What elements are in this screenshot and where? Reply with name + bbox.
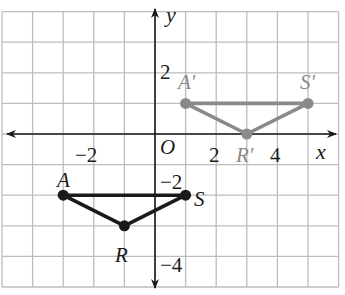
x-tick-neg2: −2 <box>75 145 97 166</box>
vertex-label-R-prime: R′ <box>236 145 253 166</box>
image-vertex-point <box>303 98 314 109</box>
y-axis-label: y <box>166 4 176 26</box>
image-vertex-point <box>241 129 252 140</box>
image-vertex-point <box>180 98 191 109</box>
vertex-label-S: S <box>194 189 205 210</box>
vertex-label-R: R <box>115 245 128 266</box>
coordinate-plane-figure: y x O −2 2 4 2 −2 −4 A R S A′ R′ S′ <box>0 0 345 295</box>
vertex-label-A: A <box>57 170 70 191</box>
origin-label: O <box>160 137 175 158</box>
vertex-label-S-prime: S′ <box>300 72 315 93</box>
y-tick-neg4: −4 <box>160 255 182 276</box>
y-tick-2: 2 <box>160 62 171 83</box>
vertex-label-A-prime: A′ <box>178 72 195 93</box>
y-tick-neg2: −2 <box>160 172 182 193</box>
x-tick-2: 2 <box>209 145 220 166</box>
x-axis-label: x <box>316 141 326 163</box>
preimage-vertex-point <box>119 220 130 231</box>
x-tick-4: 4 <box>270 145 281 166</box>
